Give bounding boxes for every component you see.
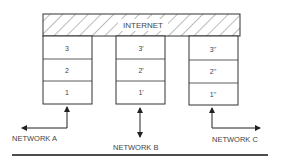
arrow-network-a [22,107,67,128]
layer-1-label: 1'' [210,91,217,98]
arrow-network-c [212,108,260,128]
layer-2-label: 2' [138,67,143,74]
layer-3-label: 3 [65,45,69,52]
layer-1-label: 1 [65,89,69,96]
network-c-label: NETWORK C [212,135,258,144]
internet-architecture-diagram: INTERNET 3 2 1 3' 2' 1' 3'' 2'' 1'' [0,0,283,162]
stack-network-b: 3' 2' 1' [116,36,165,104]
internet-label: INTERNET [123,21,163,30]
stack-network-c: 3'' 2'' 1'' [189,36,238,105]
network-a-label: NETWORK A [12,134,57,143]
layer-3-label: 3' [138,45,143,52]
layer-2-label: 2 [65,67,69,74]
layer-2-label: 2'' [210,68,217,75]
stack-network-a: 3 2 1 [43,36,92,104]
layer-1-label: 1' [138,89,143,96]
internet-layer: INTERNET [43,14,240,36]
layer-3-label: 3'' [210,46,217,53]
network-b-label: NETWORK B [113,143,158,152]
